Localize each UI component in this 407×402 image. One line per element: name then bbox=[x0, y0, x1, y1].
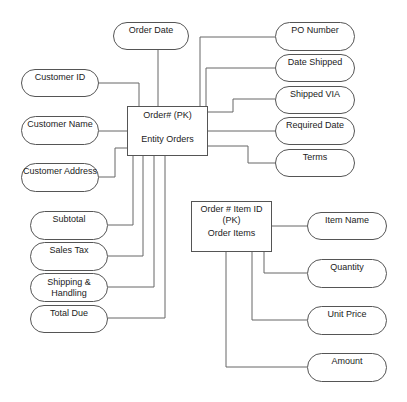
attr-shipping-handling[interactable]: Shipping & Handling bbox=[30, 273, 108, 302]
entity-orders-pk: Order# (PK) bbox=[128, 110, 207, 121]
attr-customer-address[interactable]: Customer Address bbox=[21, 163, 99, 192]
attr-terms[interactable]: Terms bbox=[275, 149, 355, 177]
entity-order-items[interactable]: Order # Item ID (PK) Order Items bbox=[191, 201, 272, 252]
attr-required-date[interactable]: Required Date bbox=[275, 117, 355, 145]
attr-customer-id[interactable]: Customer ID bbox=[21, 69, 99, 97]
attr-sales-tax[interactable]: Sales Tax bbox=[30, 242, 108, 271]
attr-date-shipped[interactable]: Date Shipped bbox=[275, 54, 355, 82]
attr-order-date[interactable]: Order Date bbox=[113, 22, 189, 50]
entity-orders[interactable]: Order# (PK) Entity Orders bbox=[127, 106, 208, 156]
entity-order-items-name: Order Items bbox=[192, 228, 271, 239]
attr-item-name[interactable]: Item Name bbox=[307, 212, 387, 240]
attr-unit-price[interactable]: Unit Price bbox=[307, 306, 387, 335]
attr-total-due[interactable]: Total Due bbox=[30, 305, 108, 333]
attr-amount[interactable]: Amount bbox=[307, 353, 387, 382]
entity-order-items-pk: Order # Item ID (PK) bbox=[192, 204, 271, 226]
attr-shipped-via[interactable]: Shipped VIA bbox=[275, 86, 355, 114]
attr-quantity[interactable]: Quantity bbox=[307, 259, 387, 288]
attr-po-number[interactable]: PO Number bbox=[275, 22, 355, 51]
attr-subtotal[interactable]: Subtotal bbox=[30, 211, 108, 240]
entity-orders-name: Entity Orders bbox=[128, 134, 207, 145]
attr-customer-name[interactable]: Customer Name bbox=[21, 116, 99, 145]
